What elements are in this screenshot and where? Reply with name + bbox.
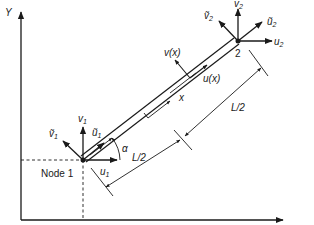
v1-label: v1 — [78, 113, 87, 125]
u1-label: u1 — [100, 166, 110, 178]
node2-point — [236, 39, 241, 44]
v-x-label: v(x) — [164, 47, 181, 58]
u2-tilde-arrow — [238, 22, 262, 41]
beam-element-diagram: Y v(x) u(x) x α Node 1 u1 v1 ũ1 ṽ1 — [0, 0, 314, 225]
v1-tilde-label: ṽ1 — [49, 128, 58, 140]
x-label: x — [178, 92, 185, 103]
u1-tilde-label: ũ1 — [92, 127, 102, 139]
dimension-label-lower: L/2 — [132, 152, 146, 163]
v2-tilde-arrow — [219, 21, 238, 41]
node1-dofs — [63, 127, 117, 160]
u2-label: u2 — [274, 36, 284, 48]
v-x-arrow — [175, 60, 190, 78]
u2-tilde-label: ũ2 — [267, 16, 277, 28]
node2-label: 2 — [235, 48, 241, 59]
v2-tilde-label: ṽ2 — [204, 10, 213, 22]
dimension-label-upper: L/2 — [231, 102, 245, 113]
global-axes — [21, 12, 283, 220]
v2-label: v2 — [234, 0, 243, 10]
dimension-lines — [91, 50, 268, 196]
node1-point — [81, 158, 86, 163]
u-x-label: u(x) — [203, 73, 220, 84]
node2-dofs — [219, 9, 272, 41]
node1-label: Node 1 — [41, 168, 74, 179]
y-axis-label: Y — [5, 7, 13, 18]
v1-tilde-arrow — [63, 141, 83, 160]
beam-element — [81, 38, 239, 162]
alpha-label: α — [122, 143, 128, 154]
